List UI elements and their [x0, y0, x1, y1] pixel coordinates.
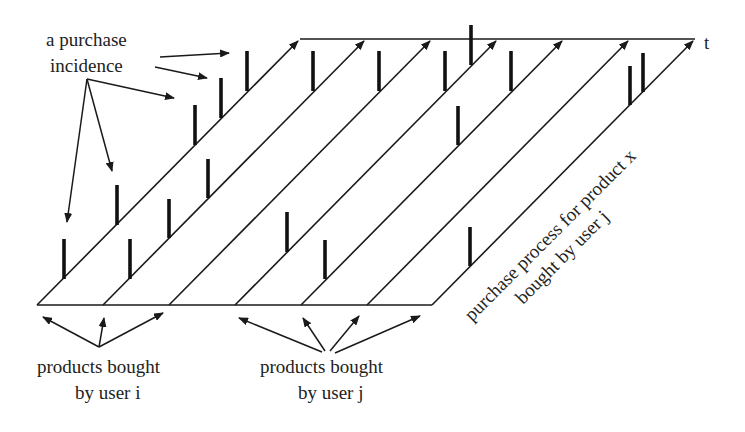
user-i-label-line1: products bought: [37, 356, 161, 377]
user-i-label-line2: by user i: [75, 382, 140, 403]
process-label: purchase process for product x bought by…: [460, 145, 657, 342]
user-j-label-line1: products bought: [260, 356, 384, 377]
process-label-line1: purchase process for product x: [460, 145, 640, 325]
incidence-label-line2: incidence: [50, 55, 123, 76]
user-j-label-line2: by user j: [298, 382, 363, 403]
product-line-5: [367, 41, 628, 305]
product-time-lines: [37, 41, 693, 305]
user-j-arrows: [239, 316, 420, 353]
time-axis-label: t: [704, 32, 710, 53]
purchase-process-diagram: a purchase incidence t purchase process …: [0, 0, 745, 432]
user-i-arrows: [43, 313, 163, 347]
incidence-arrows: [67, 53, 229, 222]
incidence-label-line1: a purchase: [46, 29, 127, 50]
product-line-0: [37, 41, 298, 305]
product-line-3: [235, 41, 496, 305]
